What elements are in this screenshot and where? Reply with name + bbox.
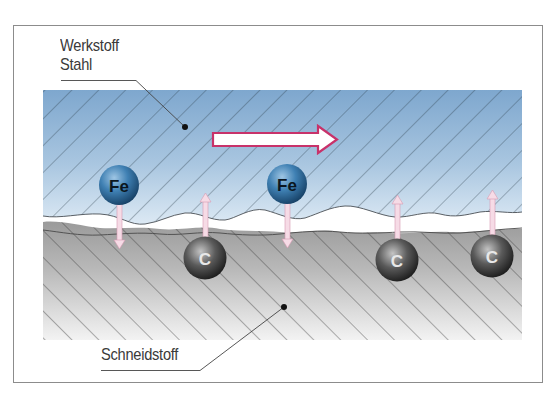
fe-atom-label: Fe [277, 176, 297, 195]
tool-material-label: Schneidstoff [101, 345, 178, 364]
hatched-area [43, 90, 522, 340]
c-atom-icon: C [184, 237, 227, 280]
c-atom-label: C [199, 250, 211, 269]
fe-atom-icon: Fe [99, 165, 139, 205]
workpiece-label: Werkstoff Stahl [60, 36, 119, 74]
workpiece-label-line2: Stahl [60, 55, 119, 74]
fe-atom-label: Fe [109, 177, 129, 196]
c-atom-label: C [486, 248, 498, 267]
c-atom-icon: C [471, 235, 514, 278]
workpiece-label-line1: Werkstoff [60, 36, 119, 55]
tool-leader-dot [281, 304, 287, 310]
fe-atom-icon: Fe [267, 164, 307, 204]
c-atom-icon: C [376, 239, 419, 282]
c-atom-label: C [391, 252, 403, 271]
workpiece-leader-dot [182, 124, 188, 130]
diffusion-diagram: Fe Fe C C C Werkstoff Stahl Schneidstoff [0, 0, 552, 393]
